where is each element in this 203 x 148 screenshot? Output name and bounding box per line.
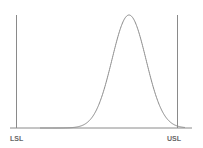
lsl-label: LSL — [10, 135, 24, 142]
usl-label: USL — [167, 135, 182, 142]
distribution-curve — [40, 15, 185, 128]
process-capability-chart: LSL USL — [0, 0, 203, 148]
